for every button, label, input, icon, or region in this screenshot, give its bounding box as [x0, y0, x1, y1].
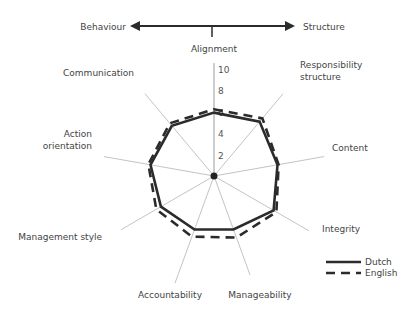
- center-dot: [211, 173, 218, 180]
- axis-label-alignment: Alignment: [191, 44, 238, 54]
- axis-label-integrity: Integrity: [322, 224, 361, 234]
- axis-label-action-orientation: Action: [64, 129, 92, 139]
- axis-label-communication: Communication: [63, 68, 134, 78]
- axis-label-responsibility-structure: structure: [300, 72, 341, 82]
- axis-label-manageability: Manageability: [228, 290, 292, 300]
- arrow-right-icon: [285, 21, 295, 31]
- tick-label: 10: [218, 65, 230, 75]
- spoke-content: [214, 157, 324, 176]
- spoke-integrity: [214, 176, 309, 231]
- axis-label-accountability: Accountability: [138, 290, 203, 300]
- spoke-action-orientation: [104, 157, 214, 176]
- tick-label: 8: [218, 86, 224, 96]
- tick-label: 4: [218, 129, 224, 139]
- arrow-left-icon: [130, 21, 140, 31]
- spoke-management-style: [121, 176, 214, 230]
- legend: Dutch English: [326, 257, 398, 278]
- behaviour-label: Behaviour: [80, 22, 126, 32]
- axis-label-responsibility-structure: Responsibility: [300, 60, 363, 70]
- axis-label-management-style: Management style: [18, 232, 102, 242]
- structure-label: Structure: [303, 22, 345, 32]
- tick-label: 2: [218, 151, 224, 161]
- axis-label-action-orientation: orientation: [43, 141, 92, 151]
- axis-label-content: Content: [332, 143, 368, 153]
- spoke-responsibility-structure: [214, 94, 283, 176]
- behaviour-structure-axis: Behaviour Structure: [80, 21, 345, 37]
- spoke-communication: [145, 94, 214, 176]
- radar-chart: Behaviour Structure 246810 AlignmentResp…: [0, 0, 413, 316]
- legend-english-label: English: [365, 268, 398, 278]
- legend-dutch-label: Dutch: [365, 257, 392, 267]
